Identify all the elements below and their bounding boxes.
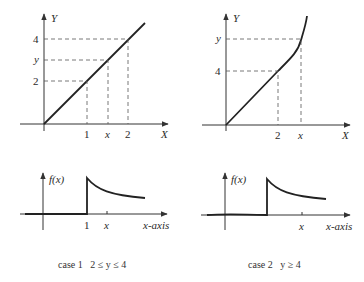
- y-axis-label: f(x): [49, 173, 65, 186]
- caption-case1: case 1 2 ≤ y ≤ 4: [58, 259, 126, 270]
- x-axis-label: x-axis: [142, 219, 169, 231]
- y-tick-4: 4: [215, 65, 221, 77]
- x-tick-1: 1: [84, 219, 90, 231]
- case1-density-plot: f(x) x-axis 1 x: [20, 173, 169, 231]
- y-tick-y: y: [215, 32, 221, 44]
- x-tick-x: x: [297, 129, 303, 141]
- y-axis-label: f(x): [231, 173, 247, 186]
- y-tick-4: 4: [33, 33, 39, 45]
- x-tick-x: x: [298, 220, 304, 232]
- x-tick-x: x: [103, 219, 109, 231]
- x-tick-2: 2: [125, 128, 131, 140]
- caption-case2: case 2 y ≥ 4: [248, 259, 301, 270]
- y-axis-label: Y: [233, 12, 241, 24]
- case2-transform-plot: Y X y 4 2 x: [202, 12, 350, 141]
- x-tick-2: 2: [275, 129, 281, 141]
- x-axis-label: x-axis: [325, 220, 352, 232]
- y-tick-y: y: [33, 53, 39, 65]
- case1-transform-plot: Y X 4 y 2 1 x 2: [20, 12, 169, 140]
- x-tick-1: 1: [84, 128, 90, 140]
- diagram-canvas: Y X 4 y 2 1 x 2 Y X y 4 2 x f(x) x-axis …: [0, 0, 364, 282]
- x-axis-label: X: [160, 128, 169, 140]
- case2-density-plot: f(x) x-axis x: [201, 173, 352, 232]
- y-tick-2: 2: [33, 75, 39, 87]
- transform-line: [44, 23, 145, 124]
- x-tick-x: x: [104, 128, 110, 140]
- x-axis-label: X: [341, 129, 350, 141]
- transform-curve: [226, 16, 307, 125]
- y-axis-label: Y: [51, 12, 59, 24]
